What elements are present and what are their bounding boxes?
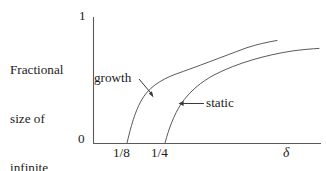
y-axis-label: Fractional size of infinite component <box>10 30 88 171</box>
y-tick-label-0: 0 <box>78 132 85 145</box>
y-tick-label-1: 1 <box>79 9 86 22</box>
annotation-label-static: static <box>206 96 234 109</box>
y-axis-label-line-3: infinite <box>10 160 88 171</box>
x-tick-label-one-eighth: 1/8 <box>113 146 130 159</box>
y-axis-label-line-1: Fractional <box>10 62 88 78</box>
x-tick-label-one-quarter: 1/4 <box>151 146 168 159</box>
y-axis-label-line-2: size of <box>10 111 88 127</box>
figure-container: Fractional size of infinite component 1 … <box>0 0 326 171</box>
static-arrow-icon <box>179 101 205 106</box>
x-axis-label-delta: δ <box>283 146 289 160</box>
series-curve-static <box>165 48 319 143</box>
annotation-label-growth: growth <box>94 71 131 84</box>
